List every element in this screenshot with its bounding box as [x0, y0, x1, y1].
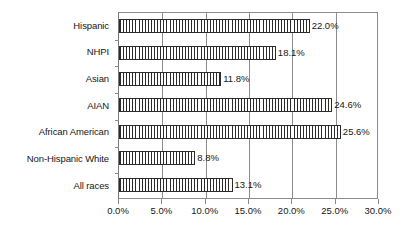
bar: 25.6%	[119, 125, 341, 139]
category-label: Asian	[0, 65, 114, 92]
value-axis-ticks	[118, 199, 378, 204]
value-axis-label: 25.0%	[321, 206, 348, 216]
bar: 8.8%	[119, 151, 195, 165]
bar-row: 24.6%	[119, 92, 377, 118]
bar: 22.0%	[119, 19, 310, 33]
bar-row: 25.6%	[119, 119, 377, 145]
category-label: AIAN	[0, 92, 114, 119]
category-label: Non-Hispanic White	[0, 146, 114, 173]
bar-row: 11.8%	[119, 66, 377, 92]
bar-value-label: 8.8%	[197, 154, 219, 164]
value-tick	[378, 199, 379, 204]
value-axis-labels: 0.0%5.0%10.0%15.0%20.0%25.0%30.0%	[0, 206, 403, 222]
category-label: African American	[0, 119, 114, 146]
category-axis-labels: Hispanic NHPI Asian AIAN African America…	[0, 12, 114, 199]
bar-value-label: 24.6%	[334, 101, 361, 111]
bar-value-label: 13.1%	[235, 180, 262, 190]
value-axis-label: 10.0%	[191, 206, 218, 216]
bar-chart: Hispanic NHPI Asian AIAN African America…	[0, 0, 403, 239]
value-tick	[291, 199, 292, 204]
value-tick	[118, 199, 119, 204]
bar-row: 22.0%	[119, 13, 377, 39]
bar-row: 13.1%	[119, 172, 377, 198]
value-axis-label: 0.0%	[107, 206, 129, 216]
value-axis-label: 5.0%	[151, 206, 173, 216]
bar: 13.1%	[119, 178, 233, 192]
value-tick	[205, 199, 206, 204]
category-label: Hispanic	[0, 12, 114, 39]
bar: 24.6%	[119, 98, 332, 112]
plot-area: 22.0% 18.1% 11.8% 24.6% 25.6%	[118, 12, 378, 199]
bar-value-label: 11.8%	[223, 74, 249, 84]
bar-value-label: 18.1%	[278, 48, 305, 58]
bar-value-label: 22.0%	[312, 21, 339, 31]
bar: 18.1%	[119, 46, 276, 60]
value-axis-label: 15.0%	[235, 206, 262, 216]
value-axis-label: 20.0%	[278, 206, 305, 216]
bar: 11.8%	[119, 72, 221, 86]
bar-row: 18.1%	[119, 39, 377, 65]
category-label: NHPI	[0, 39, 114, 66]
category-label: All races	[0, 172, 114, 199]
value-axis-label: 30.0%	[365, 206, 392, 216]
value-tick	[161, 199, 162, 204]
bar-value-label: 25.6%	[343, 127, 370, 137]
value-tick	[335, 199, 336, 204]
value-tick	[248, 199, 249, 204]
bar-row: 8.8%	[119, 145, 377, 171]
bar-rows: 22.0% 18.1% 11.8% 24.6% 25.6%	[119, 13, 377, 198]
